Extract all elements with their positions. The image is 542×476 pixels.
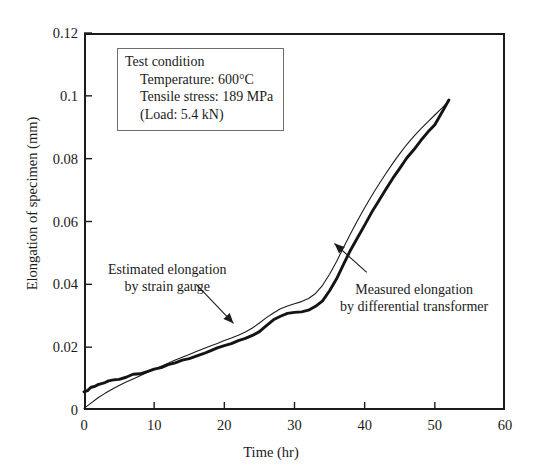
annotation-line: Estimated elongation bbox=[108, 261, 227, 278]
estimated-elongation-annotation: Estimated elongationby strain gauge bbox=[108, 261, 227, 295]
x-tick-label: 20 bbox=[204, 418, 244, 433]
x-tick-label: 10 bbox=[134, 418, 174, 433]
y-tick-label: 0.02 bbox=[28, 340, 78, 355]
annotation-line: by strain gauge bbox=[108, 278, 227, 295]
test-condition-heading: Test condition bbox=[125, 53, 273, 71]
x-axis-title: Time (hr) bbox=[0, 444, 542, 461]
measured-elongation-annotation: Measured elongationby differential trans… bbox=[340, 281, 488, 315]
test-condition-load: (Load: 5.4 kN) bbox=[125, 106, 273, 124]
annotation-line: by differential transformer bbox=[340, 298, 488, 315]
test-condition-tensile-stress: Tensile stress: 189 MPa bbox=[125, 88, 273, 106]
x-axis-tick-labels: 0102030405060 bbox=[0, 418, 542, 440]
y-tick-label: 0 bbox=[28, 403, 78, 418]
test-condition-box: Test condition Temperature: 600°C Tensil… bbox=[117, 48, 284, 131]
x-tick-label: 0 bbox=[64, 418, 104, 433]
x-tick-label: 50 bbox=[415, 418, 455, 433]
y-tick-label: 0.12 bbox=[28, 26, 78, 41]
test-condition-temperature: Temperature: 600°C bbox=[125, 71, 273, 89]
x-tick-label: 60 bbox=[485, 418, 525, 433]
x-tick-label: 30 bbox=[275, 418, 315, 433]
creep-elongation-figure: 00.020.040.060.080.10.12 0102030405060 E… bbox=[0, 0, 542, 476]
annotation-line: Measured elongation bbox=[340, 281, 488, 298]
cropped-caption-fragment bbox=[100, 0, 450, 4]
x-tick-label: 40 bbox=[345, 418, 385, 433]
y-axis-title: Elongation of specimen (mm) bbox=[24, 84, 41, 324]
